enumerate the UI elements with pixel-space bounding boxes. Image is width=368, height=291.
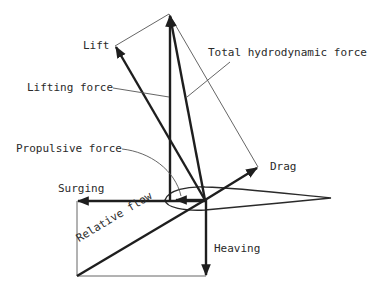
leader-lines bbox=[113, 62, 230, 196]
propulsive-force-label: Propulsive force bbox=[16, 143, 122, 154]
lift-label: Lift bbox=[83, 40, 110, 51]
hydrofoil-shape bbox=[165, 187, 331, 210]
total-hydrodynamic-force-arrow bbox=[170, 16, 205, 200]
drag-arrow bbox=[205, 168, 257, 200]
lifting-force-label: Lifting force bbox=[27, 82, 113, 93]
relative-flow-line bbox=[77, 200, 205, 276]
total-hydrodynamic-force-label: Total hydrodynamic force bbox=[208, 47, 367, 58]
heaving-label: Heaving bbox=[214, 243, 260, 254]
drag-label: Drag bbox=[270, 161, 297, 172]
surging-label: Surging bbox=[58, 183, 104, 194]
